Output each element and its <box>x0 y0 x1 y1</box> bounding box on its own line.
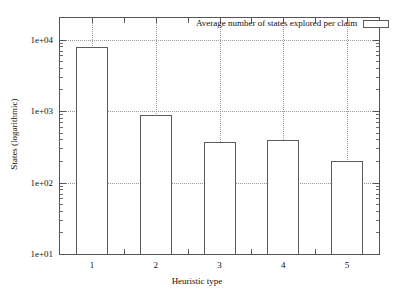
bar <box>331 161 363 254</box>
y-axis-tick <box>373 254 379 255</box>
x-axis-tick-label: 5 <box>332 261 362 270</box>
y-axis-minor-tick <box>376 148 379 149</box>
x-axis-tick <box>92 18 93 23</box>
y-axis-minor-tick <box>60 122 63 123</box>
y-axis-minor-tick <box>376 198 379 199</box>
y-axis-minor-tick <box>60 198 63 199</box>
x-axis-tick <box>124 249 125 254</box>
y-axis-minor-tick <box>376 68 379 69</box>
y-axis-minor-tick <box>60 161 63 162</box>
y-axis-minor-tick <box>376 89 379 90</box>
y-axis-tick <box>373 183 379 184</box>
x-axis-title: Heuristic type <box>0 276 394 286</box>
y-axis-tick-label: 1e+03 <box>7 107 53 116</box>
bar-chart: Average number of states explored per cl… <box>0 0 394 296</box>
y-axis-minor-tick <box>60 232 63 233</box>
y-axis-tick <box>373 40 379 41</box>
y-axis-tick <box>60 183 66 184</box>
y-axis-minor-tick <box>60 133 63 134</box>
y-axis-minor-tick <box>376 220 379 221</box>
y-axis-minor-tick <box>60 51 63 52</box>
x-axis-tick-label: 1 <box>77 261 107 270</box>
x-axis-tick <box>315 249 316 254</box>
x-axis-tick <box>188 249 189 254</box>
plot-area <box>59 17 380 255</box>
y-axis-minor-tick <box>60 55 63 56</box>
y-axis-tick-label: 1e+01 <box>7 250 53 259</box>
y-axis-minor-tick <box>60 186 63 187</box>
y-axis-minor-tick <box>60 194 63 195</box>
y-axis-minor-tick <box>376 77 379 78</box>
x-axis-tick <box>379 249 380 254</box>
y-axis-minor-tick <box>376 55 379 56</box>
bar <box>76 47 108 254</box>
y-axis-minor-tick <box>60 114 63 115</box>
y-axis-minor-tick <box>60 204 63 205</box>
y-axis-minor-tick <box>60 127 63 128</box>
bar <box>140 115 172 254</box>
y-axis-minor-tick <box>60 189 63 190</box>
legend: Average number of states explored per cl… <box>196 19 389 28</box>
y-axis-minor-tick <box>376 122 379 123</box>
y-axis-minor-tick <box>60 139 63 140</box>
y-axis-tick <box>60 254 66 255</box>
legend-key-swatch <box>363 20 389 28</box>
y-axis-minor-tick <box>376 161 379 162</box>
y-axis-tick <box>60 111 66 112</box>
y-axis-minor-tick <box>376 211 379 212</box>
y-axis-minor-tick <box>60 77 63 78</box>
y-axis-minor-tick <box>376 127 379 128</box>
y-axis-tick <box>373 111 379 112</box>
x-axis-tick <box>251 249 252 254</box>
y-axis-minor-tick <box>376 232 379 233</box>
x-axis-tick-label: 3 <box>205 261 235 270</box>
y-axis-minor-tick <box>60 61 63 62</box>
y-axis-minor-tick <box>376 133 379 134</box>
y-axis-minor-tick <box>60 148 63 149</box>
y-axis-tick-label: 1e+02 <box>7 179 53 188</box>
y-axis-minor-tick <box>60 211 63 212</box>
y-axis-title: States (logarithmic) <box>9 74 19 194</box>
y-axis-minor-tick <box>60 89 63 90</box>
x-axis-tick-label: 2 <box>141 261 171 270</box>
y-axis-minor-tick <box>376 43 379 44</box>
y-axis-minor-tick <box>60 68 63 69</box>
y-axis-minor-tick <box>376 139 379 140</box>
y-axis-minor-tick <box>376 51 379 52</box>
y-axis-minor-tick <box>376 204 379 205</box>
x-axis-tick <box>124 18 125 23</box>
y-axis-minor-tick <box>376 186 379 187</box>
y-axis-minor-tick <box>60 118 63 119</box>
y-axis-tick <box>60 40 66 41</box>
y-axis-minor-tick <box>60 220 63 221</box>
y-axis-minor-tick <box>376 194 379 195</box>
y-axis-minor-tick <box>60 43 63 44</box>
y-axis-minor-tick <box>376 61 379 62</box>
bar <box>204 142 236 254</box>
y-axis-minor-tick <box>376 189 379 190</box>
x-axis-tick-label: 4 <box>268 261 298 270</box>
y-axis-minor-tick <box>60 46 63 47</box>
legend-label: Average number of states explored per cl… <box>196 19 357 28</box>
bar <box>267 140 299 254</box>
y-axis-minor-tick <box>376 114 379 115</box>
y-axis-minor-tick <box>376 118 379 119</box>
y-axis-tick-label: 1e+04 <box>7 36 53 45</box>
x-axis-tick <box>188 18 189 23</box>
y-axis-minor-tick <box>376 46 379 47</box>
x-axis-tick <box>156 18 157 23</box>
